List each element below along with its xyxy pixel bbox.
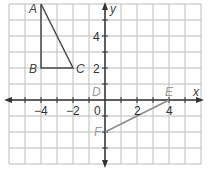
y-axis-label: y — [109, 2, 117, 16]
y-axis-up-arrow-icon — [102, 2, 108, 10]
point-label-e: E — [165, 85, 174, 99]
x-axis — [4, 97, 204, 103]
x-tick-label: 2 — [134, 104, 141, 118]
point-label-b: B — [29, 62, 37, 76]
point-label-c: C — [76, 62, 85, 76]
x-tick-label: 4 — [166, 104, 173, 118]
x-axis-left-arrow-icon — [4, 97, 12, 103]
y-tick-label: 4 — [93, 30, 100, 44]
x-tick-label: 0 — [94, 104, 101, 118]
point-label-a: A — [28, 2, 37, 16]
y-tick-label: 2 — [93, 62, 100, 76]
x-tick-label: −4 — [34, 104, 48, 118]
x-tick-label: −2 — [66, 104, 80, 118]
y-axis — [102, 2, 108, 168]
x-axis-label: x — [192, 85, 200, 99]
coordinate-plane: y x −4 −2 0 2 4 2 4 A B C D E F — [0, 0, 208, 172]
point-label-d: D — [92, 85, 101, 99]
point-label-f: F — [94, 125, 102, 139]
